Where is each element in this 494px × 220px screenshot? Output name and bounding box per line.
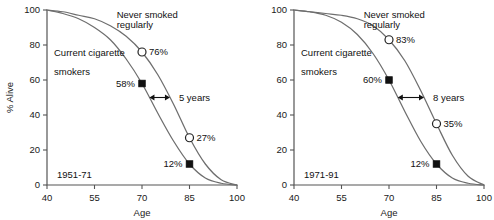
label-current-smokers-line2: smokers [54,66,90,77]
y-tick-label: 80 [29,39,40,50]
y-tick-label: 20 [276,144,287,155]
value-label-never-85: 35% [444,118,464,129]
value-label-smoker-85: 12% [410,158,430,169]
y-tick-label: 40 [29,109,40,120]
x-axis-title: Age [381,207,398,218]
y-tick-label: 0 [35,179,40,190]
marker-smoker-85[interactable] [433,161,439,167]
marker-smoker-70[interactable] [386,77,392,83]
gap-years-label: 5 years [179,92,210,103]
x-tick-label: 70 [384,192,395,203]
y-tick-label: 100 [24,4,40,15]
label-current-smokers: Current cigarette [54,47,125,58]
marker-never-70[interactable] [385,36,393,44]
value-label-smoker-70: 58% [116,78,136,89]
value-label-never-70: 83% [396,34,416,45]
x-tick-label: 100 [229,192,245,203]
label-current-smokers: Current cigarette [301,47,372,58]
x-tick-label: 55 [89,192,100,203]
marker-never-85[interactable] [433,120,441,128]
x-tick-label: 85 [431,192,442,203]
y-axis-title: % Alive [4,82,15,113]
label-never-smoked-line2: regularly [364,19,401,30]
label-current-smokers-line2: smokers [301,66,337,77]
y-tick-label: 20 [29,144,40,155]
y-tick-label: 0 [282,179,287,190]
gap-annotation: 5 years [149,92,210,103]
x-tick-label: 55 [336,192,347,203]
y-tick-label: 60 [276,74,287,85]
x-tick-label: 85 [184,192,195,203]
x-tick-label: 100 [476,192,492,203]
x-tick-label: 40 [42,192,53,203]
gap-years-label: 8 years [433,92,464,103]
value-label-smoker-70: 60% [363,74,383,85]
chart-svg-right: 02040608010040557085100AgeNever smokedre… [247,0,494,220]
label-never-smoked-line2: regularly [117,19,154,30]
y-tick-label: 40 [276,109,287,120]
marker-smoker-70[interactable] [139,80,145,86]
value-label-never-85: 27% [197,132,217,143]
x-tick-label: 70 [137,192,148,203]
period-label: 1951-71 [57,169,92,180]
survival-curves-figure: 02040608010040557085100Age% AliveNever s… [0,0,494,220]
value-label-smoker-85: 12% [163,158,183,169]
chart-panel-1971-91: 02040608010040557085100AgeNever smokedre… [247,0,494,220]
chart-panel-1951-71: 02040608010040557085100Age% AliveNever s… [0,0,247,220]
x-tick-label: 40 [289,192,300,203]
y-tick-label: 80 [276,39,287,50]
gap-annotation: 8 years [398,92,465,103]
chart-svg-left: 02040608010040557085100Age% AliveNever s… [0,0,247,220]
period-label: 1971-91 [304,169,339,180]
y-tick-label: 100 [271,4,287,15]
marker-never-70[interactable] [138,48,146,56]
y-tick-label: 60 [29,74,40,85]
value-label-never-70: 76% [149,46,169,57]
marker-never-85[interactable] [186,134,194,142]
marker-smoker-85[interactable] [186,161,192,167]
x-axis-title: Age [134,207,151,218]
